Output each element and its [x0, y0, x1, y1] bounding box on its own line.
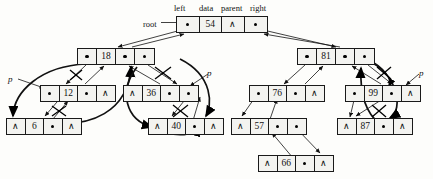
tree-node-36: ∧36	[123, 85, 199, 102]
node-57-cell-parent	[269, 119, 288, 134]
node-57-cell-data: 57	[251, 119, 270, 134]
tree-node-12: 12∧	[40, 85, 116, 102]
pointer-label-p-left-inner: p	[207, 68, 212, 78]
node-99-cell-right: ∧	[402, 86, 420, 101]
tree-node-66: ∧66∧	[258, 155, 334, 172]
node-66-cell-right: ∧	[315, 156, 333, 171]
header-right: right	[250, 3, 266, 13]
header-data: data	[199, 3, 213, 13]
node-81-cell-data: 81	[317, 49, 336, 64]
node-40-cell-left: ∧	[149, 119, 168, 134]
node-66-cell-left: ∧	[259, 156, 278, 171]
node-40-cell-right: ∧	[205, 119, 223, 134]
node-54-cell-right	[245, 17, 267, 32]
node-54-cell-parent: ∧	[222, 17, 245, 32]
node-6-cell-data: 6	[26, 119, 45, 134]
node-12-cell-data: 12	[60, 86, 79, 101]
node-18-cell-right	[135, 49, 154, 64]
node-36-cell-right	[180, 86, 198, 101]
tree-node-18: 18	[77, 48, 155, 65]
node-12-cell-right: ∧	[97, 86, 115, 101]
node-18-cell-parent	[116, 49, 135, 64]
node-76-cell-left	[250, 86, 269, 101]
header-left: left	[174, 3, 185, 13]
node-81-cell-left	[298, 49, 317, 64]
pointer-label-p-left-outer: p	[8, 74, 13, 84]
node-87-cell-data: 87	[357, 119, 376, 134]
node-6-cell-left: ∧	[7, 119, 26, 134]
node-12-cell-parent	[78, 86, 97, 101]
tree-node-87: ∧87∧	[337, 118, 413, 135]
node-87-cell-right: ∧	[394, 119, 412, 134]
node-76-cell-data: 76	[269, 86, 288, 101]
node-87-cell-parent	[375, 119, 394, 134]
node-40-cell-parent	[186, 119, 205, 134]
node-6-cell-right: ∧	[63, 119, 81, 134]
node-18-cell-data: 18	[97, 49, 116, 64]
node-76-cell-parent	[287, 86, 306, 101]
root-label: root	[143, 19, 157, 29]
tree-node-6: ∧6∧	[6, 118, 82, 135]
node-99-cell-left	[346, 86, 365, 101]
node-99-cell-data: 99	[365, 86, 384, 101]
node-36-cell-parent	[161, 86, 180, 101]
node-40-cell-data: 40	[168, 119, 187, 134]
node-57-cell-left: ∧	[232, 119, 251, 134]
node-18-cell-left	[78, 49, 97, 64]
node-54-cell-data: 54	[200, 17, 223, 32]
node-66-cell-data: 66	[278, 156, 297, 171]
node-99-cell-parent	[383, 86, 402, 101]
node-66-cell-parent	[296, 156, 315, 171]
pointer-label-p-right: p	[419, 68, 424, 78]
tree-node-81: 81	[297, 48, 375, 65]
tree-node-76: 76∧	[249, 85, 325, 102]
node-36-cell-left: ∧	[124, 86, 143, 101]
node-54-cell-left	[177, 17, 200, 32]
node-36-cell-data: 36	[143, 86, 162, 101]
node-12-cell-left	[41, 86, 60, 101]
node-6-cell-parent	[44, 119, 63, 134]
node-81-cell-parent	[336, 49, 355, 64]
tree-node-57: ∧57	[231, 118, 307, 135]
header-parent: parent	[221, 3, 242, 13]
node-76-cell-right: ∧	[306, 86, 324, 101]
tree-node-40: ∧40∧	[148, 118, 224, 135]
node-57-cell-right	[288, 119, 306, 134]
tree-diagram-canvas: left data parent right root p p p	[0, 0, 433, 179]
tree-node-99: 99∧	[345, 85, 421, 102]
tree-node-54: 54∧	[176, 16, 268, 33]
node-87-cell-left: ∧	[338, 119, 357, 134]
node-81-cell-right	[355, 49, 374, 64]
